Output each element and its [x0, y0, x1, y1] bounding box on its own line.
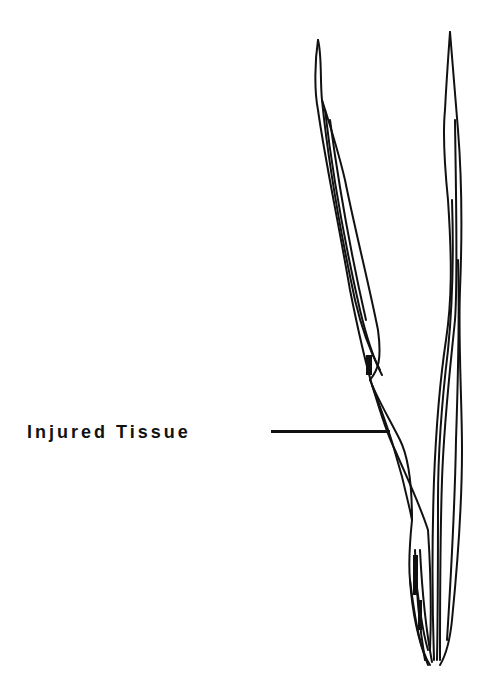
label-leader-line [271, 430, 390, 433]
right-leaf [433, 32, 463, 665]
leaf-drawing [0, 0, 494, 691]
injured-tissue-label: Injured Tissue [27, 421, 191, 443]
